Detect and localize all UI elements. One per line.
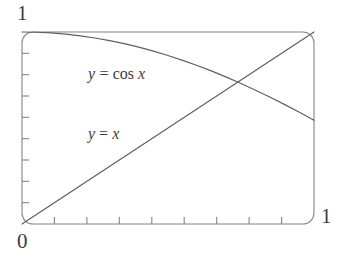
identity-label-argument: x (112, 125, 119, 142)
cos-label-argument: x (138, 65, 145, 82)
curve-label-identity: y = x (88, 126, 119, 142)
plot-canvas (0, 0, 346, 273)
x-axis-max-label: 1 (321, 206, 332, 227)
curve-label-cos-x: y = cos x (88, 66, 145, 82)
y-axis-max-label: 1 (17, 3, 28, 24)
y-axis-ticks (22, 53, 29, 202)
x-axis-ticks (54, 217, 281, 224)
figure-cos-x-fixed-point: 1 0 1 y = cos x y = x (0, 0, 346, 273)
curve-identity (22, 32, 314, 224)
cos-label-equals: = (100, 65, 109, 82)
identity-label-equals: = (99, 125, 108, 142)
cos-label-function: cos (113, 65, 134, 82)
origin-label: 0 (17, 231, 28, 252)
curve-cos-x (22, 32, 314, 120)
